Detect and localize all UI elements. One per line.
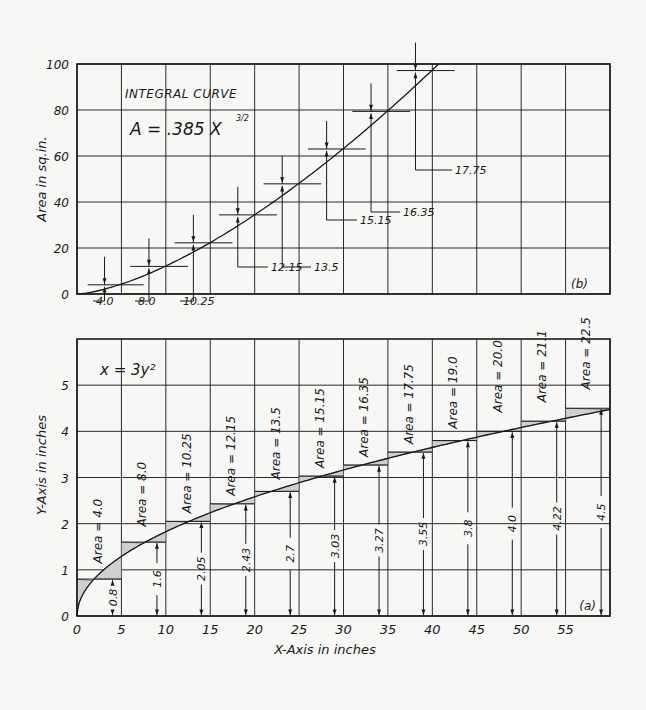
x-tick-label: 45 — [468, 622, 485, 637]
y-tick-label: 20 — [54, 242, 70, 256]
arrowhead-icon — [413, 64, 417, 70]
arrowhead-icon — [103, 278, 107, 284]
arrowhead-icon — [421, 453, 425, 459]
strip-area-label: Area = 8.0 — [135, 461, 149, 527]
x-tick-label: 35 — [380, 622, 397, 637]
y-tick-label: 40 — [54, 196, 70, 210]
strip-area-label: Area = 4.0 — [91, 498, 105, 564]
leader-line — [415, 73, 452, 170]
leader-line — [371, 113, 400, 212]
arrowhead-icon — [510, 432, 514, 438]
y-axis-title: Y-Axis in inches — [34, 415, 49, 515]
x-tick-label: 25 — [291, 622, 308, 637]
strip-area-label: Area = 12.15 — [224, 416, 238, 497]
strip-area-label: Area = 22.5 — [579, 317, 593, 390]
arrowhead-icon — [555, 609, 559, 615]
strip-height-label: 4.0 — [506, 515, 519, 533]
x-tick-label: 40 — [424, 622, 441, 637]
strip-height-label: 2.43 — [240, 548, 253, 573]
step-area-label: 17.75 — [455, 164, 487, 177]
strip-height-label: 4.5 — [595, 503, 608, 521]
y-tick-label: 100 — [46, 58, 69, 72]
arrowhead-icon — [466, 609, 470, 615]
arrowhead-icon — [377, 609, 381, 615]
y-tick-label: 1 — [61, 564, 69, 578]
arrowhead-icon — [280, 186, 284, 192]
arrowhead-icon — [111, 609, 115, 615]
arrowhead-icon — [236, 208, 240, 214]
x-tick-label: 30 — [335, 622, 352, 637]
strip-area-label: Area = 17.75 — [402, 364, 416, 445]
strip-height-label: 3.8 — [462, 520, 475, 538]
panel-label: (b) — [571, 277, 588, 291]
arrowhead-icon — [510, 609, 514, 615]
arrowhead-icon — [599, 609, 603, 615]
step-area-label: 16.35 — [403, 206, 435, 219]
step-area-label: 10.25 — [183, 295, 215, 308]
panel-label: (a) — [579, 599, 596, 613]
strip-area-label: Area = 21.1 — [535, 330, 549, 403]
step-area-label: 15.15 — [360, 214, 392, 227]
equation-label: A = .385 X — [129, 119, 222, 139]
arrowhead-icon — [413, 73, 417, 79]
strip-height-label: 0.8 — [107, 589, 120, 607]
arrowhead-icon — [199, 609, 203, 615]
strip-area-label: Area = 10.25 — [180, 433, 194, 514]
y-tick-label: 4 — [61, 425, 69, 439]
arrowhead-icon — [325, 151, 329, 157]
y-tick-label: 5 — [61, 379, 69, 393]
y-tick-label: 0 — [61, 610, 69, 624]
y-tick-label: 80 — [54, 104, 70, 118]
arrowhead-icon — [288, 492, 292, 498]
strip-area-label: Area = 15.15 — [313, 388, 327, 469]
integral-curve-chart: 0204060801004.08.010.2512.1513.515.1516.… — [34, 43, 610, 308]
arrowhead-icon — [555, 422, 559, 428]
parabola-strip-chart: 01234505101520253035404550550.8Area = 4.… — [34, 317, 610, 657]
arrowhead-icon — [244, 505, 248, 511]
strip-height-label: 2.05 — [195, 556, 208, 581]
strip-area-label: Area = 16.35 — [357, 377, 371, 458]
strip-area-label: Area = 20.0 — [491, 340, 505, 414]
figure: 0204060801004.08.010.2512.1513.515.1516.… — [0, 0, 646, 710]
strip-area-label: Area = 13.5 — [269, 407, 283, 480]
x-axis-title: X-Axis in inches — [273, 642, 376, 657]
hatched-area — [77, 579, 93, 616]
leader-line — [327, 151, 357, 220]
arrowhead-icon — [244, 609, 248, 615]
arrowhead-icon — [191, 236, 195, 242]
arrowhead-icon — [369, 113, 373, 119]
arrowhead-icon — [147, 268, 151, 274]
strip-area-label: Area = 19.0 — [446, 356, 460, 430]
x-tick-label: 0 — [73, 622, 81, 637]
chart-title: x = 3y² — [99, 361, 155, 379]
x-tick-label: 10 — [158, 622, 175, 637]
strip-height-label: 3.27 — [373, 528, 386, 553]
arrowhead-icon — [111, 580, 115, 586]
arrowhead-icon — [280, 177, 284, 183]
arrowhead-icon — [325, 142, 329, 148]
arrowhead-icon — [333, 609, 337, 615]
x-tick-label: 55 — [557, 622, 574, 637]
arrowhead-icon — [421, 609, 425, 615]
strip-height-label: 4.22 — [551, 506, 564, 531]
arrowhead-icon — [466, 442, 470, 448]
x-tick-label: 15 — [202, 622, 219, 637]
strip-height-label: 3.03 — [329, 534, 342, 559]
x-tick-label: 50 — [513, 622, 530, 637]
strip-height-label: 1.6 — [151, 570, 164, 588]
y-tick-label: 60 — [54, 150, 70, 164]
arrowhead-icon — [236, 217, 240, 223]
y-axis-title: Area in sq.in. — [34, 136, 49, 222]
strip-height-label: 3.55 — [417, 522, 430, 547]
arrowhead-icon — [147, 260, 151, 266]
step-area-label: 8.0 — [138, 295, 156, 308]
y-tick-label: 2 — [61, 518, 69, 532]
exponent-label: 3/2 — [236, 114, 249, 123]
leader-line — [238, 217, 268, 267]
x-tick-label: 5 — [117, 622, 125, 637]
arrowhead-icon — [377, 466, 381, 472]
strip-height-label: 2.7 — [284, 545, 297, 563]
chart-title: INTEGRAL CURVE — [125, 87, 237, 101]
y-tick-label: 3 — [61, 472, 69, 486]
leader-line — [282, 186, 311, 267]
